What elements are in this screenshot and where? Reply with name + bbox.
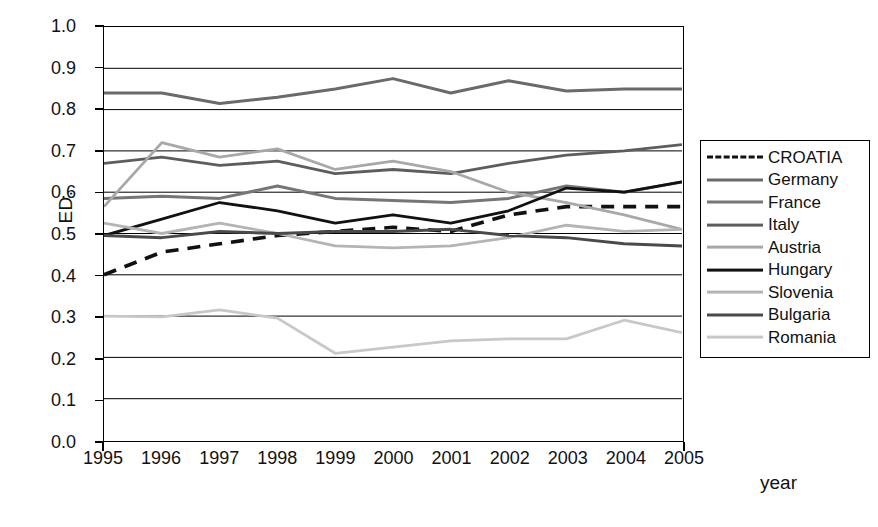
x-tick-label: 2000 [364, 449, 424, 467]
y-tick-mark [95, 275, 104, 277]
legend-label: Italy [763, 216, 799, 233]
legend: CROATIAGermanyFranceItalyAustriaHungaryS… [700, 140, 870, 358]
legend-swatch-icon [707, 173, 763, 187]
legend-label: France [763, 194, 821, 211]
y-tick-mark [95, 67, 104, 69]
y-tick-label: 0.0 [32, 433, 76, 451]
legend-item[interactable]: Romania [707, 326, 863, 349]
x-tick-label: 1995 [73, 449, 133, 467]
y-tick-mark [95, 108, 104, 110]
legend-item[interactable]: France [707, 191, 863, 214]
legend-swatch-icon [707, 150, 763, 164]
x-tick-label: 1999 [305, 449, 365, 467]
x-tick-mark [683, 442, 685, 451]
x-axis-title: year [760, 472, 797, 494]
legend-label: Germany [763, 171, 838, 188]
y-tick-mark [95, 400, 104, 402]
x-tick-label: 2003 [538, 449, 598, 467]
y-tick-label: 0.1 [32, 391, 76, 409]
series-line [104, 79, 682, 104]
legend-label: Hungary [763, 261, 832, 278]
y-tick-label: 0.2 [32, 350, 76, 368]
legend-label: CROATIA [763, 149, 842, 166]
x-tick-label: 1996 [131, 449, 191, 467]
legend-item[interactable]: Germany [707, 169, 863, 192]
series-line [104, 143, 682, 230]
y-tick-label: 0.6 [32, 183, 76, 201]
y-tick-label: 0.7 [32, 142, 76, 160]
legend-label: Romania [763, 329, 836, 346]
legend-item[interactable]: Italy [707, 214, 863, 237]
legend-swatch-icon [707, 263, 763, 277]
x-tick-label: 2004 [596, 449, 656, 467]
x-tick-label: 2002 [480, 449, 540, 467]
y-tick-mark [95, 316, 104, 318]
legend-swatch-icon [707, 285, 763, 299]
legend-label: Slovenia [763, 284, 833, 301]
y-tick-mark [95, 358, 104, 360]
legend-swatch-icon [707, 240, 763, 254]
legend-item[interactable]: Bulgaria [707, 304, 863, 327]
y-tick-label: 0.4 [32, 267, 76, 285]
y-tick-mark [95, 441, 104, 443]
y-tick-mark [95, 233, 104, 235]
x-tick-label: 2005 [654, 449, 714, 467]
legend-swatch-icon [707, 195, 763, 209]
series-canvas [104, 27, 682, 440]
series-line [104, 229, 682, 246]
plot-area [103, 26, 684, 442]
legend-item[interactable]: CROATIA [707, 146, 863, 169]
y-tick-mark [95, 192, 104, 194]
x-tick-label: 1998 [247, 449, 307, 467]
legend-swatch-icon [707, 218, 763, 232]
y-tick-mark [95, 25, 104, 27]
legend-item[interactable]: Slovenia [707, 281, 863, 304]
y-axis-tick-labels: 1.00.90.80.70.60.50.40.30.20.10.0 [18, 0, 76, 527]
legend-item[interactable]: Austria [707, 236, 863, 259]
legend-swatch-icon [707, 330, 763, 344]
y-tick-label: 0.8 [32, 100, 76, 118]
y-tick-mark [95, 150, 104, 152]
y-tick-label: 0.3 [32, 308, 76, 326]
chart-figure: ED. 1.00.90.80.70.60.50.40.30.20.10.0 19… [0, 0, 878, 527]
y-tick-label: 1.0 [32, 17, 76, 35]
legend-swatch-icon [707, 308, 763, 322]
legend-label: Austria [763, 239, 821, 256]
legend-item[interactable]: Hungary [707, 259, 863, 282]
y-tick-label: 0.5 [32, 225, 76, 243]
x-tick-label: 2001 [422, 449, 482, 467]
x-tick-mark [102, 442, 104, 451]
y-tick-label: 0.9 [32, 59, 76, 77]
legend-label: Bulgaria [763, 306, 830, 323]
x-tick-label: 1997 [189, 449, 249, 467]
